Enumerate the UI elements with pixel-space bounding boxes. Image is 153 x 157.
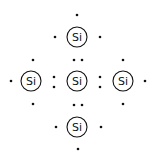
electron-dot <box>73 59 76 62</box>
atom-label: Si <box>72 121 82 134</box>
electron-dot <box>100 126 103 129</box>
electron-dot <box>32 59 35 62</box>
electron-dot <box>122 103 125 106</box>
electron-dot <box>55 126 58 129</box>
electron-dot <box>73 104 76 107</box>
silicon-lattice-diagram: SiSiSiSiSi <box>0 0 153 157</box>
atom-label: Si <box>118 75 128 88</box>
atom-top: Si <box>67 27 87 47</box>
electron-dot <box>99 36 102 39</box>
electron-dot <box>10 80 13 83</box>
electron-dot <box>144 80 147 83</box>
electron-dot <box>122 59 125 62</box>
electron-dot <box>54 36 57 39</box>
electron-dot <box>53 86 56 89</box>
atom-left: Si <box>21 71 41 91</box>
atom-right: Si <box>113 71 133 91</box>
atom-label: Si <box>72 31 82 44</box>
atom-center: Si <box>67 71 87 91</box>
electron-dot <box>32 103 35 106</box>
electron-dot <box>81 104 84 107</box>
electron-dot <box>76 14 79 17</box>
atom-label: Si <box>72 75 82 88</box>
electron-dot <box>99 86 102 89</box>
electron-dot <box>53 76 56 79</box>
atom-bottom: Si <box>67 117 87 137</box>
atoms: SiSiSiSiSi <box>21 27 133 137</box>
atom-label: Si <box>26 75 36 88</box>
electron-dot <box>81 59 84 62</box>
electron-dot <box>77 148 80 151</box>
electron-dot <box>99 76 102 79</box>
